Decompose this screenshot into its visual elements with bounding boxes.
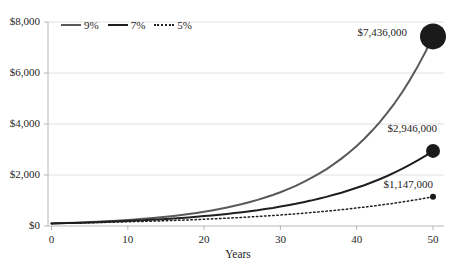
end-value-label-5pct: $1,147,000 (384, 178, 434, 190)
series-end-marker-5% (430, 194, 436, 200)
series-end-marker-9% (420, 23, 446, 49)
x-tick-label: 30 (275, 233, 286, 245)
legend-label-9pct: 9% (84, 19, 99, 31)
legend-item-5pct: 5% (154, 19, 192, 31)
legend-item-7pct: 7% (108, 19, 146, 31)
series-line-5% (52, 197, 434, 224)
chart-canvas (0, 0, 452, 267)
compound-growth-chart: 9% 7% 5% $0 $2,000 $4,000 $6,000 $8,000 … (0, 0, 452, 267)
end-value-label-7pct: $2,946,000 (388, 122, 438, 134)
x-tick-label: 50 (428, 233, 439, 245)
series-end-marker-7% (426, 144, 440, 158)
legend-item-9pct: 9% (61, 19, 99, 31)
legend-line-sample-9pct (61, 24, 81, 26)
end-value-label-9pct: $7,436,000 (358, 26, 408, 38)
legend-label-7pct: 7% (131, 19, 146, 31)
y-tick-label: $2,000 (0, 168, 40, 181)
series-line-7% (52, 151, 434, 224)
legend-line-sample-7pct (108, 24, 128, 26)
y-tick-label: $6,000 (0, 66, 40, 79)
series-line-9% (52, 36, 434, 223)
x-axis-title: Years (24, 248, 452, 260)
chart-legend: 9% 7% 5% (61, 19, 192, 31)
x-tick-label: 20 (199, 233, 210, 245)
y-tick-label: $0 (0, 219, 40, 232)
x-tick-label: 10 (122, 233, 133, 245)
y-tick-label: $4,000 (0, 117, 40, 130)
legend-line-sample-5pct (154, 24, 174, 26)
legend-label-5pct: 5% (177, 19, 192, 31)
x-tick-label: 0 (49, 233, 55, 245)
y-tick-label: $8,000 (0, 15, 40, 28)
x-tick-label: 40 (351, 233, 362, 245)
